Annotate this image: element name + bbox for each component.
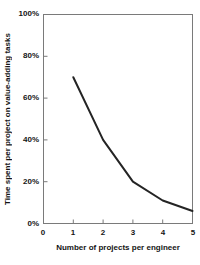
y-axis-title: Time spent per project on value-adding t… xyxy=(2,14,13,224)
y-tick-label-0: 0% xyxy=(0,219,39,228)
y-tick-label-100: 100% xyxy=(0,9,39,18)
y-tick-label-40: 40% xyxy=(0,135,39,144)
line-chart-figure: Time spent per project on value-adding t… xyxy=(0,0,200,265)
x-axis-title: Number of projects per engineer xyxy=(38,243,198,253)
plot-area xyxy=(43,14,193,224)
axis-frame xyxy=(44,15,193,224)
data-line xyxy=(73,77,192,211)
y-tick-label-20: 20% xyxy=(0,177,39,186)
y-tick-label-60: 60% xyxy=(0,93,39,102)
x-tick-label-1: 1 xyxy=(63,228,83,237)
x-tick-label-5: 5 xyxy=(183,228,200,237)
x-tick-label-3: 3 xyxy=(123,228,143,237)
x-tick-label-2: 2 xyxy=(93,228,113,237)
x-tick-label-0: 0 xyxy=(33,228,53,237)
x-tick-label-4: 4 xyxy=(153,228,173,237)
y-tick-label-80: 80% xyxy=(0,51,39,60)
